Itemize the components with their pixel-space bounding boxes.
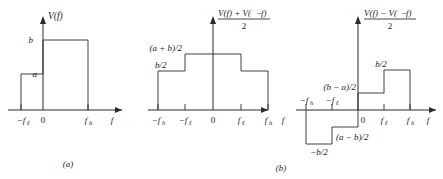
panel-a-xtick-neg-fl-sub: ℓ <box>26 119 30 126</box>
panel-b-odd-xtick-neg-fl-sub: ℓ <box>335 99 339 106</box>
panel-b-odd-xtick-fl: f ℓ <box>381 115 388 126</box>
panel-b-odd-label-neg-b-over2: −b/2 <box>310 147 328 157</box>
panel-a-xtick-fh: f h <box>85 115 93 126</box>
panel-b-odd-xtick-neg-fh-text: −f <box>300 95 310 105</box>
panel-b-odd-xtick-neg-fl-text: −f <box>326 95 336 105</box>
panel-b-even: (a + b)/2 b/2 V(f) + V( − f) 2 −f h −f ℓ… <box>148 8 286 126</box>
panel-b-odd-label-ab-minus-over2: (a − b)/2 <box>336 132 369 142</box>
panel-b-even-xtick-neg-fl-text: −f <box>179 115 189 125</box>
panel-b-odd-xtick-neg-fh: −f h <box>300 95 314 106</box>
panel-b-even-y-title-denom: 2 <box>242 21 247 31</box>
panel-b-even-label-b-over2: b/2 <box>155 60 167 70</box>
panel-b-even-label-ab-over2: (a + b)/2 <box>149 43 182 53</box>
panel-a-xtick-fh-sub: h <box>89 119 92 126</box>
panel-b-odd-label-ba-over2: (b − a)/2 <box>323 82 356 92</box>
panel-b-even-y-title-num-p2: f) <box>261 8 267 18</box>
panel-b-odd-y-arrow-icon <box>355 16 361 24</box>
panel-b-even-xtick-zero: 0 <box>211 115 216 125</box>
panel-a-step-curve <box>21 40 88 110</box>
three-panel-spectrum-figure: b a V(f) −f ℓ 0 f h f (a) <box>0 0 443 179</box>
panel-b-odd-xtick-fl-sub: ℓ <box>384 119 388 126</box>
panel-b-even-x-arrow-icon <box>261 107 268 113</box>
panel-a-x-arrow-icon <box>115 107 122 113</box>
panel-b-even-y-arrow-icon <box>210 16 216 24</box>
panel-a: b a V(f) −f ℓ 0 f h f (a) <box>8 11 122 169</box>
panel-b-odd-x-arrow-icon <box>429 107 436 113</box>
panel-b-even-y-title-num-p1: V(f) + V( <box>218 8 252 18</box>
panel-b-odd-xtick-fh-sub: h <box>411 119 414 126</box>
panel-a-xtick-neg-fl-text: −f <box>17 115 27 125</box>
figure-root: b a V(f) −f ℓ 0 f h f (a) <box>0 0 443 179</box>
panel-b-even-xtick-neg-fh-sub: h <box>162 119 165 126</box>
panel-b-odd-label-b-over2: b/2 <box>375 59 387 69</box>
panel-b-odd-y-title-num-p1: V(f) − V( <box>364 8 398 18</box>
panel-b-odd-xtick-neg-fl: −f ℓ <box>326 95 339 106</box>
panel-b-even-xtick-fh-sub: h <box>269 119 272 126</box>
panel-b-even-y-axis-title: V(f) + V( − f) 2 <box>218 8 270 31</box>
panel-b-odd-y-axis-title: V(f) − V( − f) 2 <box>364 8 416 31</box>
panel-b-even-xtick-neg-fl-sub: ℓ <box>188 119 192 126</box>
panel-a-x-axis-label: f <box>111 115 115 125</box>
panel-b-caption: (b) <box>276 163 287 173</box>
panel-a-y-axis-title: V(f) <box>48 11 63 22</box>
panel-a-label-b: b <box>29 35 34 45</box>
panel-a-xtick-neg-fl: −f ℓ <box>17 115 30 126</box>
panel-a-xtick-zero: 0 <box>41 115 46 125</box>
panel-a-label-a: a <box>33 69 38 79</box>
panel-b-even-xtick-fl: f ℓ <box>238 115 245 126</box>
panel-b-odd-xtick-zero: 0 <box>361 115 366 125</box>
panel-a-y-arrow-icon <box>40 16 46 24</box>
panel-b-odd-y-title-num-p2: f) <box>406 8 412 18</box>
panel-b-odd-xtick-neg-fh-sub: h <box>310 99 313 106</box>
panel-b-odd-y-title-denom: 2 <box>388 21 393 31</box>
panel-b-even-x-axis-label: f <box>282 115 286 125</box>
panel-b-even-xtick-fh: f h <box>265 115 273 126</box>
panel-b-odd-x-axis-label: f <box>427 115 431 125</box>
panel-b-even-xtick-neg-fl: −f ℓ <box>179 115 192 126</box>
panel-b-odd-xtick-fh: f h <box>407 115 415 126</box>
panel-a-caption: (a) <box>63 159 74 169</box>
panel-b-even-xtick-neg-fh: −f h <box>152 115 166 126</box>
panel-b-even-xtick-fl-sub: ℓ <box>241 119 245 126</box>
panel-b-even-xtick-neg-fh-text: −f <box>152 115 162 125</box>
panel-b-odd: b/2 (b − a)/2 (a − b)/2 −b/2 V(f) − V( −… <box>276 8 436 173</box>
